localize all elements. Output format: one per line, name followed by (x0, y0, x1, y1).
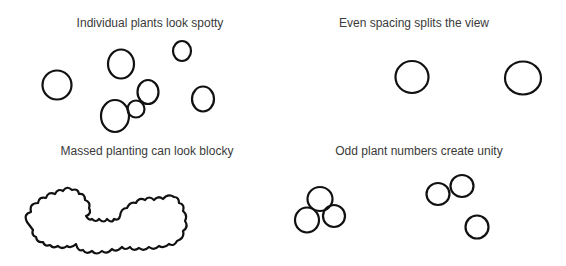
panel-massed (26, 188, 187, 254)
massed-planting-shape (26, 188, 187, 254)
plant-circle (192, 87, 214, 112)
plant-circle (43, 71, 72, 100)
plant-circle (466, 216, 489, 239)
plant-circle (451, 175, 474, 197)
panel-odd-numbers (295, 175, 489, 239)
panel-spotty (43, 41, 215, 132)
plant-circle (427, 183, 450, 205)
plant-circle (101, 100, 129, 132)
plant-circle (138, 80, 159, 104)
plant-circle (173, 41, 191, 61)
plant-circle (396, 61, 429, 93)
plant-circle (295, 208, 319, 233)
plant-circle (505, 62, 541, 95)
plant-circle (108, 50, 134, 79)
plant-circle (323, 205, 345, 227)
panel-even-spacing (396, 61, 542, 95)
planting-diagram (0, 0, 566, 266)
